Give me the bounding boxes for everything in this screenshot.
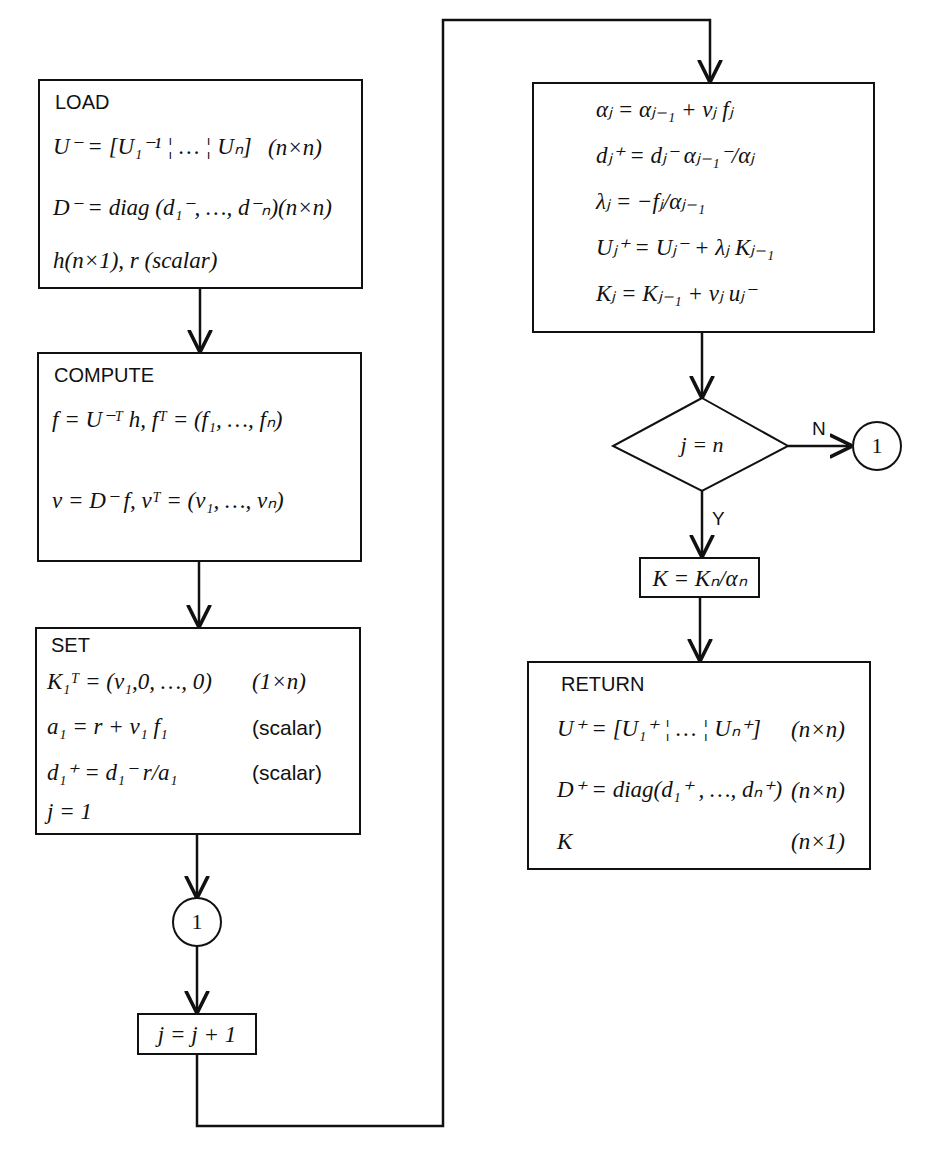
load-row-h: h(n×1), r (scalar)	[53, 248, 217, 274]
increment-expr: j = j + 1	[139, 1022, 255, 1048]
loop-row-d: dⱼ⁺ = dⱼ⁻ αⱼ₋₁⁻/αⱼ	[596, 142, 754, 169]
return-row-u: U⁺ = [U₁⁺ ¦ … ¦ Uₙ⁺]	[557, 715, 761, 742]
return-row-k-dim: (n×1)	[791, 829, 845, 855]
set-row-k: K₁ᵀ = (v₁,0, …, 0)	[47, 669, 212, 695]
return-title: RETURN	[561, 673, 644, 696]
return-box: RETURN U⁺ = [U₁⁺ ¦ … ¦ Uₙ⁺] (n×n) D⁺ = d…	[527, 661, 871, 870]
return-row-d-dim: (n×n)	[791, 778, 845, 804]
set-row-a-dim: (scalar)	[252, 716, 322, 740]
loop-row-k: Kⱼ = Kⱼ₋₁ + vⱼ uⱼ⁻	[596, 280, 756, 307]
load-title: LOAD	[55, 91, 109, 114]
set-row-k-dim: (1×n)	[252, 669, 306, 695]
set-row-d-dim: (scalar)	[252, 761, 322, 785]
compute-title: COMPUTE	[54, 364, 154, 387]
return-row-k: K	[557, 829, 572, 855]
connector-label: 1	[173, 909, 221, 935]
set-title: SET	[51, 634, 90, 657]
set-row-a: a₁ = r + v₁ f₁	[47, 714, 168, 740]
increment-box: j = j + 1	[137, 1013, 257, 1055]
connector-ref-label: 1	[853, 433, 901, 459]
loop-row-alpha: αⱼ = αⱼ₋₁ + vⱼ fⱼ	[596, 96, 733, 123]
loop-row-u: Uⱼ⁺ = Uⱼ⁻ + λⱼ Kⱼ₋₁	[596, 234, 774, 261]
decision-yes-label: Y	[712, 508, 725, 530]
load-row-d: D⁻ = diag (d₁⁻, …, d⁻ₙ)(n×n)	[53, 194, 332, 221]
set-row-d: d₁⁺ = d₁⁻ r/a₁	[47, 759, 178, 786]
return-row-u-dim: (n×n)	[791, 717, 845, 743]
loop-body-box: αⱼ = αⱼ₋₁ + vⱼ fⱼ dⱼ⁺ = dⱼ⁻ αⱼ₋₁⁻/αⱼ λⱼ …	[532, 82, 875, 333]
set-box: SET K₁ᵀ = (v₁,0, …, 0) (1×n) a₁ = r + v₁…	[35, 627, 361, 835]
decision-expr: j = n	[632, 432, 772, 458]
return-row-d: D⁺ = diag(d₁⁺ , …, dₙ⁺)	[557, 776, 782, 803]
load-box: LOAD U⁻ = [U₁⁻¹ ¦ … ¦ Uₙ] (n×n) D⁻ = dia…	[38, 79, 363, 289]
decision-no-label: N	[812, 418, 826, 440]
set-row-j: j = 1	[47, 799, 92, 825]
loop-row-lambda: λⱼ = −fⱼ/αⱼ₋₁	[596, 188, 705, 215]
compute-row-f: f = U⁻ᵀ h, fᵀ = (f₁, …, fₙ)	[52, 406, 283, 433]
gain-expr: K = Kₙ/αₙ	[641, 565, 758, 592]
compute-row-v: v = D⁻ f, vᵀ = (v₁, …, vₙ)	[52, 487, 284, 514]
load-row-u: U⁻ = [U₁⁻¹ ¦ … ¦ Uₙ]	[53, 133, 252, 160]
gain-box: K = Kₙ/αₙ	[639, 557, 760, 598]
load-row-u-dim: (n×n)	[268, 135, 322, 161]
compute-box: COMPUTE f = U⁻ᵀ h, fᵀ = (f₁, …, fₙ) v = …	[37, 352, 362, 562]
